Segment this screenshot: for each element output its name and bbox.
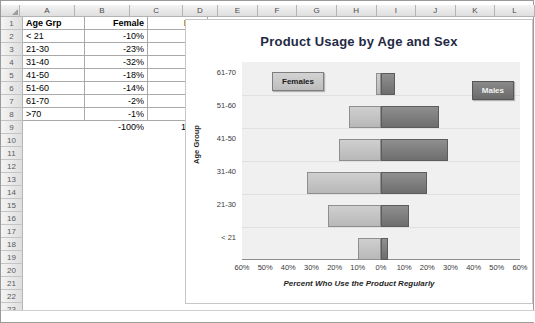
row-header[interactable]: 10 [1, 134, 23, 147]
x-axis-tick-label: 60% [229, 263, 255, 272]
cell-a6[interactable]: 51-60 [23, 82, 85, 95]
column-header-g[interactable]: G [297, 5, 337, 17]
row-header[interactable]: 3 [1, 43, 23, 56]
x-axis-tick-label: 30% [438, 263, 464, 272]
y-axis-tick-label: 31-40 [190, 167, 236, 176]
cell-a9[interactable] [23, 121, 85, 134]
column-header-e[interactable]: E [218, 5, 258, 17]
row-header[interactable]: 22 [1, 290, 23, 303]
row-header[interactable]: 9 [1, 121, 23, 134]
cell-a1[interactable]: Age Grp [23, 17, 85, 30]
x-axis-tick-label: 30% [299, 263, 325, 272]
column-header-f[interactable]: F [258, 5, 298, 17]
cell-a7[interactable]: 61-70 [23, 95, 85, 108]
bar-female-21-30[interactable] [328, 205, 381, 227]
x-axis-tick-label: 50% [252, 263, 278, 272]
row-header[interactable]: 13 [1, 173, 23, 186]
x-axis-tick-label: 10% [345, 263, 371, 272]
bar-male-31-40[interactable] [381, 172, 427, 194]
cell-b9[interactable]: -100% [85, 121, 148, 134]
chart-x-axis-title: Percent Who Use the Product Regularly [186, 279, 532, 288]
select-all-corner[interactable] [1, 5, 20, 17]
x-axis-tick-label: 20% [414, 263, 440, 272]
cell-a8[interactable]: >70 [23, 108, 85, 121]
row-header[interactable]: 5 [1, 69, 23, 82]
column-header-c[interactable]: C [130, 5, 183, 17]
cell-b8[interactable]: -1% [85, 108, 148, 121]
x-axis-tick-label: 10% [391, 263, 417, 272]
row-header[interactable]: 18 [1, 238, 23, 251]
cell-a3[interactable]: 21-30 [23, 43, 85, 56]
bar-female-51-60[interactable] [349, 106, 381, 128]
row-header[interactable]: 12 [1, 160, 23, 173]
bar-male-51-60[interactable] [381, 106, 439, 128]
column-header-b[interactable]: B [75, 5, 130, 17]
cell-b7[interactable]: -2% [85, 95, 148, 108]
y-axis-tick-label: 21-30 [190, 200, 236, 209]
chart-y-axis-title: Age Group [192, 115, 201, 175]
cell-a5[interactable]: 41-50 [23, 69, 85, 82]
cell-b6[interactable]: -14% [85, 82, 148, 95]
cell-a2[interactable]: < 21 [23, 30, 85, 43]
column-header-k[interactable]: K [456, 5, 496, 17]
row-header[interactable]: 2 [1, 30, 23, 43]
row-header[interactable]: 6 [1, 82, 23, 95]
column-header-a[interactable]: A [20, 5, 75, 17]
bar-male-41-50[interactable] [381, 139, 448, 161]
x-axis-tick-label: 20% [322, 263, 348, 272]
x-axis-tick-label: 40% [461, 263, 487, 272]
x-axis-tick-label: 0% [368, 263, 394, 272]
cell-a4[interactable]: 31-40 [23, 56, 85, 69]
legend-males[interactable]: Males [472, 81, 514, 100]
plot-area: Females Males [242, 62, 520, 260]
bar-male-lt21[interactable] [381, 238, 388, 260]
column-header-l[interactable]: L [495, 5, 535, 17]
row-header-column: 1 2 3 4 5 6 7 8 9 10 11 12 13 14 15 16 1… [1, 17, 23, 316]
row-header[interactable]: 17 [1, 225, 23, 238]
gridline [242, 227, 520, 228]
x-axis-tick-label: 50% [484, 263, 510, 272]
y-axis-tick-label: 51-60 [190, 101, 236, 110]
column-header-d[interactable]: D [183, 5, 218, 17]
row-header[interactable]: 14 [1, 186, 23, 199]
row-header[interactable]: 21 [1, 277, 23, 290]
cell-b2[interactable]: -10% [85, 30, 148, 43]
cell-b4[interactable]: -32% [85, 56, 148, 69]
column-header-j[interactable]: J [416, 5, 456, 17]
y-axis-tick-label: 61-70 [190, 68, 236, 77]
column-header-row: A B C D E F G H I J K L [1, 5, 535, 17]
row-header[interactable]: 1 [1, 17, 23, 30]
bar-female-41-50[interactable] [339, 139, 381, 161]
chart-object[interactable]: Product Usage by Age and Sex Age Group 6… [185, 19, 533, 304]
bar-female-31-40[interactable] [307, 172, 381, 194]
legend-females[interactable]: Females [272, 72, 324, 91]
row-header[interactable]: 20 [1, 264, 23, 277]
row-header[interactable]: 15 [1, 199, 23, 212]
bar-female-lt21[interactable] [358, 238, 381, 260]
gridline [242, 128, 520, 129]
bar-male-21-30[interactable] [381, 205, 409, 227]
y-axis-tick-label: < 21 [190, 233, 236, 242]
sheet-tab-strip [1, 310, 535, 322]
column-header-i[interactable]: I [377, 5, 417, 17]
row-header[interactable]: 8 [1, 108, 23, 121]
x-axis-tick-label: 60% [507, 263, 533, 272]
bar-male-61-70[interactable] [381, 73, 395, 95]
cell-b1[interactable]: Female [85, 17, 148, 30]
row-header[interactable]: 4 [1, 56, 23, 69]
chart-title: Product Usage by Age and Sex [186, 34, 532, 49]
y-axis-tick-label: 41-50 [190, 134, 236, 143]
gridline [242, 194, 520, 195]
gridline [242, 161, 520, 162]
row-header[interactable]: 7 [1, 95, 23, 108]
row-header[interactable]: 16 [1, 212, 23, 225]
column-header-h[interactable]: H [337, 5, 377, 17]
cell-b5[interactable]: -18% [85, 69, 148, 82]
cell-b3[interactable]: -23% [85, 43, 148, 56]
row-header[interactable]: 19 [1, 251, 23, 264]
row-header[interactable]: 11 [1, 147, 23, 160]
x-axis-tick-label: 40% [275, 263, 301, 272]
